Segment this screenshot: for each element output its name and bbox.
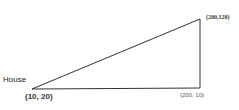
house-label: House (3, 75, 26, 84)
bottom-right-coordinate-label: (200, 10) (180, 92, 204, 98)
hypotenuse-line (32, 19, 200, 89)
top-right-coordinate-label: (200,120) (206, 14, 230, 20)
origin-coordinate-label: (10, 20) (25, 92, 53, 101)
base-line (32, 88, 200, 89)
